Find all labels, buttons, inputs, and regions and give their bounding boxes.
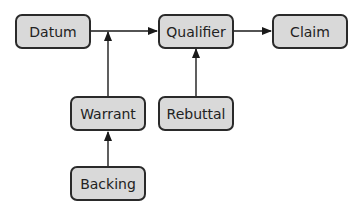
node-claim: Claim	[272, 14, 348, 49]
node-rebuttal: Rebuttal	[158, 96, 234, 131]
node-backing: Backing	[70, 166, 146, 201]
node-warrant: Warrant	[70, 96, 146, 131]
node-datum: Datum	[15, 14, 91, 49]
node-qualifier: Qualifier	[158, 14, 234, 49]
